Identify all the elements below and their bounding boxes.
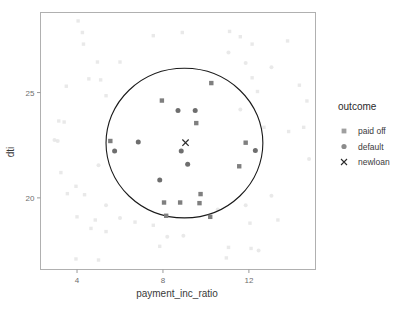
paid-off-point	[75, 215, 78, 218]
legend-title: outcome	[338, 101, 377, 112]
paid-off-point	[62, 120, 65, 123]
default-point	[181, 234, 185, 238]
paid-off-point	[99, 78, 102, 81]
paid-off-point	[152, 224, 155, 227]
x-tick-label: 8	[161, 276, 166, 285]
legend-item[interactable]: newloan	[341, 157, 390, 167]
legend: outcome paid offdefaultnewloan	[338, 101, 390, 167]
paid-off-point	[82, 42, 85, 45]
paid-off-point	[104, 94, 107, 97]
paid-off-point	[65, 85, 68, 88]
paid-off-point	[249, 247, 252, 250]
paid-off-point	[96, 60, 99, 63]
default-point	[269, 194, 273, 198]
paid-off-point	[197, 201, 201, 205]
default-point	[244, 61, 248, 65]
paid-off-point	[152, 34, 155, 37]
paid-off-point	[83, 193, 86, 196]
default-point	[307, 157, 311, 161]
paid-off-point	[225, 256, 228, 259]
default-point	[253, 148, 258, 153]
paid-off-point	[250, 76, 253, 79]
default-point	[112, 149, 117, 154]
paid-off-point	[287, 130, 290, 133]
default-point	[157, 177, 162, 182]
default-point	[97, 163, 101, 167]
paid-off-point	[108, 139, 112, 143]
legend-x-icon	[341, 159, 347, 165]
default-point	[269, 65, 273, 69]
paid-off-point	[76, 19, 79, 22]
legend-item-label: default	[358, 142, 384, 152]
y-tick-label: 25	[26, 89, 35, 98]
paid-off-point	[178, 200, 182, 204]
legend-circle-icon	[341, 144, 346, 149]
y-tick-label: 20	[26, 194, 35, 203]
default-point	[136, 140, 141, 145]
paid-off-point	[74, 257, 77, 260]
default-point	[193, 108, 198, 113]
x-tick-label: 4	[75, 276, 80, 285]
paid-off-point	[248, 221, 251, 224]
paid-off-point	[160, 98, 164, 102]
legend-item[interactable]: default	[341, 142, 384, 152]
paid-off-point	[133, 220, 136, 223]
paid-off-point	[66, 192, 69, 195]
paid-off-point	[305, 99, 308, 102]
legend-item-label: newloan	[358, 157, 390, 167]
paid-off-point	[228, 30, 231, 33]
default-point	[118, 216, 122, 220]
paid-off-point	[298, 83, 301, 86]
paid-off-point	[74, 185, 77, 188]
paid-off-point	[239, 35, 242, 38]
default-point	[165, 235, 169, 239]
x-axis-title: payment_inc_ratio	[136, 288, 218, 299]
paid-off-point	[118, 60, 121, 63]
paid-off-point	[198, 192, 202, 196]
paid-off-point	[209, 81, 213, 85]
default-point	[179, 149, 184, 154]
paid-off-point	[89, 227, 92, 230]
default-point	[176, 108, 181, 113]
paid-off-point	[194, 121, 198, 125]
paid-off-point	[302, 126, 305, 129]
paid-off-point	[181, 31, 184, 34]
default-point	[244, 203, 248, 207]
paid-off-point	[227, 246, 230, 249]
plot-panel	[41, 13, 316, 270]
plot-canvas: 4812 2520 payment_inc_ratio dti outcome …	[0, 0, 409, 313]
default-point	[226, 51, 230, 55]
paid-off-point	[59, 171, 62, 174]
paid-off-point	[81, 31, 84, 34]
legend-items: paid offdefaultnewloan	[341, 126, 390, 167]
default-point	[238, 107, 242, 111]
paid-off-point	[158, 245, 161, 248]
default-point	[104, 203, 108, 207]
legend-square-icon	[342, 129, 347, 134]
x-tick-label: 12	[244, 276, 253, 285]
paid-off-point	[164, 214, 168, 218]
paid-off-point	[57, 119, 60, 122]
x-axis-ticks: 4812	[75, 270, 254, 285]
paid-off-point	[162, 200, 166, 204]
paid-off-point	[262, 126, 265, 129]
paid-off-point	[250, 42, 253, 45]
paid-off-point	[208, 215, 212, 219]
default-point	[56, 139, 60, 143]
paid-off-point	[276, 218, 279, 221]
y-axis-ticks: 2520	[26, 89, 41, 203]
legend-item[interactable]: paid off	[342, 126, 387, 136]
paid-off-point	[243, 140, 247, 144]
paid-off-point	[94, 218, 97, 221]
scatter-plot-figure: 4812 2520 payment_inc_ratio dti outcome …	[0, 0, 409, 313]
legend-item-label: paid off	[358, 126, 386, 136]
paid-off-point	[104, 230, 107, 233]
paid-off-point	[97, 258, 100, 261]
paid-off-point	[256, 90, 259, 93]
y-axis-title: dti	[5, 147, 16, 158]
paid-off-point	[286, 39, 289, 42]
default-point	[257, 249, 261, 253]
default-point	[185, 162, 190, 167]
paid-off-point	[237, 164, 241, 168]
paid-off-point	[87, 77, 90, 80]
